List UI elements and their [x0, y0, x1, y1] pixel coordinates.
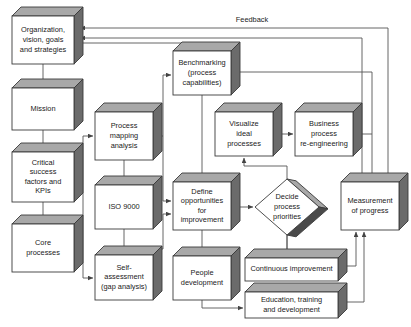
node-visualize-ideal-processes-label: ideal — [236, 129, 252, 138]
node-critical-success-factors-label: success — [30, 167, 57, 176]
node-critical-success-factors-label: KPIs — [35, 186, 51, 195]
edge-label-feedback: Feedback — [236, 15, 269, 24]
node-process-mapping-analysis-label: mapping — [110, 131, 138, 140]
node-self-assessment-label: Self- — [116, 263, 132, 272]
node-organization[interactable]: Organization,vision, goalsand strategies — [12, 7, 83, 64]
node-iso-9000[interactable]: ISO 9000 — [95, 176, 162, 229]
node-measurement-of-progress[interactable]: Measurementof progress — [341, 173, 408, 230]
node-define-opportunities[interactable]: Defineopportunitiesforimprovement — [173, 173, 240, 230]
node-process-mapping-analysis-side-face — [153, 103, 162, 160]
node-benchmarking-side-face — [231, 42, 240, 95]
node-mission[interactable]: Mission — [12, 79, 83, 130]
node-business-process-re-engineering-label: re-engineering — [300, 139, 348, 148]
node-visualize-ideal-processes-label: Visualize — [229, 119, 258, 128]
node-visualize-ideal-processes-side-face — [273, 103, 282, 156]
node-self-assessment[interactable]: Self-assessment(gap analysis) — [95, 246, 162, 300]
node-continuous-improvement[interactable]: Continuous improvement — [245, 249, 347, 281]
node-core-processes-top-face — [12, 215, 83, 224]
node-business-process-re-engineering-top-face — [295, 103, 362, 112]
node-people-development-label: development — [181, 278, 223, 287]
flowchart-canvas: Organization,vision, goalsand strategies… — [0, 0, 411, 327]
node-core-processes-label: processes — [26, 248, 60, 257]
node-mission-side-face — [74, 79, 83, 130]
node-define-opportunities-label: for — [198, 206, 207, 215]
node-people-development-side-face — [231, 247, 240, 300]
node-iso-9000-label: ISO 9000 — [108, 202, 139, 211]
node-self-assessment-side-face — [153, 246, 162, 300]
node-define-opportunities-side-face — [231, 173, 240, 230]
node-critical-success-factors-label: factors and — [25, 177, 62, 186]
node-critical-success-factors-side-face — [74, 143, 83, 202]
node-measurement-of-progress-label: of progress — [352, 206, 389, 215]
node-visualize-ideal-processes[interactable]: Visualizeidealprocesses — [215, 103, 282, 156]
node-layer: Organization,vision, goalsand strategies… — [12, 7, 408, 318]
node-self-assessment-label: assessment — [104, 272, 143, 281]
node-people-development-label: People — [190, 268, 213, 277]
node-self-assessment-label: (gap analysis) — [101, 282, 147, 291]
node-education-training-label: and development — [263, 305, 320, 314]
node-define-opportunities-label: Define — [191, 187, 212, 196]
node-organization-label: Organization, — [21, 25, 65, 34]
node-process-mapping-analysis[interactable]: Processmappinganalysis — [95, 103, 162, 160]
node-people-development[interactable]: Peopledevelopment — [173, 247, 240, 300]
node-education-training[interactable]: Education, trainingand development — [245, 283, 347, 318]
node-people-development-top-face — [173, 247, 240, 256]
node-define-opportunities-label: improvement — [181, 215, 224, 224]
edge-trunk-to-define-opportunities — [163, 136, 171, 201]
node-define-opportunities-top-face — [173, 173, 240, 182]
node-continuous-improvement-label: Continuous improvement — [250, 264, 332, 273]
node-core-processes-side-face — [74, 215, 83, 272]
node-benchmarking-label: (process — [188, 68, 217, 77]
node-organization-top-face — [12, 7, 83, 16]
node-measurement-of-progress-label: Measurement — [347, 196, 392, 205]
edge-trunk-to-self-assessment — [83, 248, 93, 278]
node-visualize-ideal-processes-label: processes — [227, 139, 261, 148]
node-critical-success-factors-top-face — [12, 143, 83, 152]
node-decide-process-priorities-label: priorities — [273, 212, 301, 221]
node-organization-label: and strategies — [20, 45, 67, 54]
node-organization-label: vision, goals — [23, 35, 64, 44]
node-business-process-re-engineering-label: process — [311, 129, 337, 138]
node-benchmarking-top-face — [173, 42, 240, 51]
node-self-assessment-top-face — [95, 246, 162, 255]
node-measurement-of-progress-top-face — [341, 173, 408, 182]
node-critical-success-factors[interactable]: Criticalsuccessfactors andKPIs — [12, 143, 83, 202]
node-core-processes[interactable]: Coreprocesses — [12, 215, 83, 272]
node-iso-9000-top-face — [95, 176, 162, 185]
node-mission-label: Mission — [30, 104, 55, 113]
node-decide-process-priorities-label: process — [274, 202, 300, 211]
node-iso-9000-side-face — [153, 176, 162, 229]
node-business-process-re-engineering-side-face — [353, 103, 362, 156]
edge-people-to-education — [202, 300, 243, 308]
process-flowchart: Organization,vision, goalsand strategies… — [0, 0, 411, 327]
node-benchmarking-label: capabilities) — [182, 78, 221, 87]
node-benchmarking-label: Benchmarking — [178, 58, 225, 67]
node-mission-top-face — [12, 79, 83, 88]
node-measurement-of-progress-side-face — [399, 173, 408, 230]
edge-label-layer: Feedback — [230, 14, 273, 25]
node-core-processes-label: Core — [35, 238, 51, 247]
node-process-mapping-analysis-label: analysis — [111, 141, 138, 150]
node-process-mapping-analysis-top-face — [95, 103, 162, 112]
node-business-process-re-engineering[interactable]: Businessprocessre-engineering — [295, 103, 362, 156]
node-education-training-top-face — [245, 283, 347, 292]
node-business-process-re-engineering-label: Business — [309, 119, 339, 128]
node-critical-success-factors-label: Critical — [32, 158, 55, 167]
node-organization-side-face — [74, 7, 83, 64]
node-decide-process-priorities-label: Decide — [275, 192, 298, 201]
node-decide-process-priorities[interactable]: Decideprocesspriorities — [255, 179, 328, 237]
node-visualize-ideal-processes-top-face — [215, 103, 282, 112]
node-education-training-label: Education, training — [261, 295, 322, 304]
node-process-mapping-analysis-label: Process — [111, 121, 138, 130]
node-define-opportunities-label: opportunities — [181, 196, 224, 205]
node-continuous-improvement-top-face — [245, 249, 347, 258]
node-benchmarking[interactable]: Benchmarking(processcapabilities) — [173, 42, 240, 95]
